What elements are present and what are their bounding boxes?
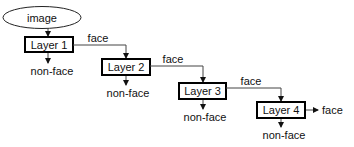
layer-3-node: Layer 3 bbox=[179, 83, 226, 99]
layer-1-pass-arrow bbox=[73, 45, 126, 58]
layer-2-node: Layer 2 bbox=[102, 59, 150, 75]
layer-4-label: Layer 4 bbox=[263, 104, 300, 116]
layer-3-pass-label: face bbox=[241, 75, 262, 87]
layer-1-label: Layer 1 bbox=[31, 39, 68, 51]
layer-3-pass-arrow bbox=[226, 88, 281, 101]
layer-2-pass-label: face bbox=[163, 53, 184, 65]
layer-4-node: Layer 4 bbox=[257, 102, 305, 118]
input-node: image bbox=[3, 7, 81, 29]
cascade-diagram: image Layer 1 non-face face Layer 2 non-… bbox=[0, 0, 354, 147]
layer-2-label: Layer 2 bbox=[108, 61, 145, 73]
layer-1-node: Layer 1 bbox=[25, 37, 73, 52]
layer-3-label: Layer 3 bbox=[184, 85, 221, 97]
layer-4-pass-label: face bbox=[322, 104, 343, 116]
layer-3-reject-label: non-face bbox=[184, 111, 227, 123]
layer-1-pass-label: face bbox=[88, 32, 109, 44]
layer-4-reject-label: non-face bbox=[263, 129, 306, 141]
layer-2-pass-arrow bbox=[150, 66, 203, 82]
input-label: image bbox=[27, 12, 57, 24]
layer-2-reject-label: non-face bbox=[107, 87, 150, 99]
layer-1-reject-label: non-face bbox=[31, 65, 74, 77]
